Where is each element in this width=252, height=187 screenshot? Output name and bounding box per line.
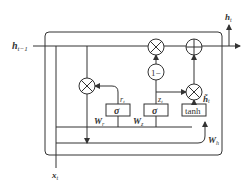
x-t-label: xt	[51, 170, 59, 181]
w-h-label: Wh	[208, 135, 219, 146]
w-z-label: Wz	[133, 116, 144, 127]
r-t-label: rt	[120, 95, 125, 104]
z-t-label: zt	[157, 95, 163, 104]
gru-diagram: 1− ht−1 ht xt σ σ tanh rt zt h̃t Wr Wz W…	[0, 0, 252, 187]
one-minus-label: 1−	[151, 68, 161, 78]
h-tilde-label: h̃t	[203, 94, 210, 104]
sigma-update-label: σ	[152, 105, 158, 116]
tanh-label: tanh	[185, 106, 201, 116]
w-r-label: Wr	[94, 116, 105, 127]
h-prev-label: ht−1	[12, 40, 28, 53]
sigma-reset-label: σ	[114, 105, 120, 116]
h-t-label: ht	[225, 12, 232, 23]
